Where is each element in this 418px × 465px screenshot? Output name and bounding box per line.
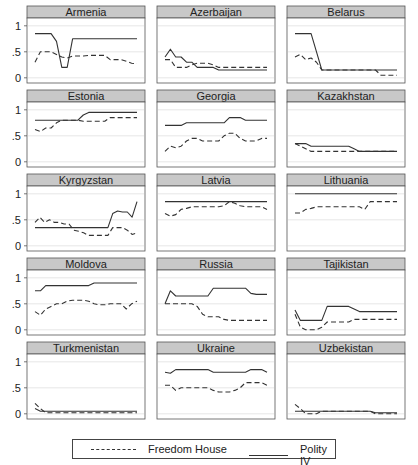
legend-item-freedom-house: Freedom House — [91, 443, 227, 455]
panel-azerbaijan: Azerbaijan — [157, 6, 275, 83]
y-tick-label: 1 — [15, 356, 21, 368]
y-tick-label: .5 — [12, 382, 21, 394]
panel-estonia: Estonia0.51 — [12, 90, 145, 168]
panel-latvia: Latvia — [157, 174, 275, 251]
chart-legend: Freedom House Polity IV — [72, 439, 336, 459]
legend-label-freedom-house: Freedom House — [148, 443, 227, 455]
panel-title: Moldova — [65, 258, 107, 270]
panel-title: Kazakhstan — [317, 90, 374, 102]
panel-title: Kyrgyzstan — [59, 174, 113, 186]
panel-ukraine: Ukraine — [157, 342, 275, 419]
panel-title: Lithuania — [324, 174, 370, 186]
panel-title: Azerbaijan — [190, 6, 242, 18]
y-tick-label: 0 — [15, 240, 21, 252]
panel-russia: Russia — [157, 258, 275, 335]
legend-item-polity: Polity IV — [249, 443, 335, 465]
y-tick-label: 1 — [15, 272, 21, 284]
panel-uzbekistan: Uzbekistan — [287, 342, 405, 419]
y-tick-label: .5 — [12, 46, 21, 58]
panel-armenia: Armenia0.51 — [12, 6, 145, 84]
panel-kazakhstan: Kazakhstan — [287, 90, 405, 167]
panel-title: Tajikistan — [323, 258, 368, 270]
y-tick-label: 1 — [15, 104, 21, 116]
panel-title: Armenia — [66, 6, 108, 18]
y-tick-label: .5 — [12, 298, 21, 310]
panel-georgia: Georgia — [157, 90, 275, 167]
panel-tajikistan: Tajikistan — [287, 258, 405, 335]
panel-title: Ukraine — [197, 342, 235, 354]
y-tick-label: 0 — [15, 156, 21, 168]
panel-lithuania: Lithuania — [287, 174, 405, 251]
panel-title: Uzbekistan — [319, 342, 373, 354]
dashed-line-icon — [91, 449, 136, 450]
panel-title: Georgia — [196, 90, 236, 102]
small-multiples-chart: Armenia0.51AzerbaijanBelarusEstonia0.51G… — [0, 0, 418, 430]
panel-title: Latvia — [201, 174, 231, 186]
solid-line-icon — [249, 455, 288, 456]
y-tick-label: .5 — [12, 214, 21, 226]
y-tick-label: 0 — [15, 408, 21, 420]
panel-moldova: Moldova0.51 — [12, 258, 145, 336]
panel-kyrgyzstan: Kyrgyzstan0.51 — [12, 174, 145, 252]
y-tick-label: .5 — [12, 130, 21, 142]
legend-label-polity: Polity IV — [300, 443, 335, 465]
panel-title: Turkmenistan — [53, 342, 119, 354]
panel-title: Estonia — [68, 90, 106, 102]
panel-title: Belarus — [327, 6, 365, 18]
panel-title: Russia — [199, 258, 234, 270]
panel-turkmenistan: Turkmenistan0.51 — [12, 342, 145, 420]
panel-belarus: Belarus — [287, 6, 405, 83]
y-tick-label: 0 — [15, 324, 21, 336]
y-tick-label: 1 — [15, 188, 21, 200]
y-tick-label: 0 — [15, 72, 21, 84]
y-tick-label: 1 — [15, 20, 21, 32]
